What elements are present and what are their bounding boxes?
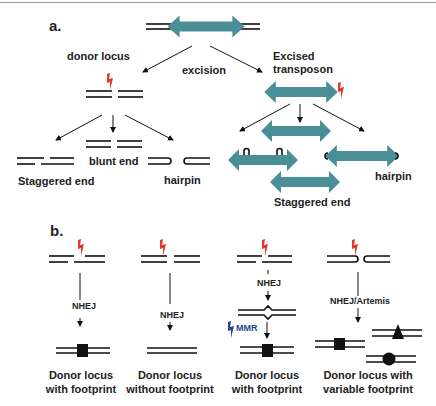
diagram-graphics	[0, 0, 436, 406]
broken-donor-locus	[86, 91, 143, 97]
hairpin-locus	[327, 256, 390, 262]
dsb-lightning-icon	[107, 73, 113, 90]
transposon-label: transposon	[273, 63, 333, 75]
staggered-end-glyph	[17, 158, 74, 164]
excised-transposon-arrow	[264, 81, 338, 103]
hairpin-glyph	[148, 158, 210, 164]
nhej-label: NHEJ	[257, 278, 281, 288]
nhej-label: NHEJ	[72, 301, 96, 311]
staggered-end-label: Staggered end	[18, 175, 94, 187]
mmr-label: MMR	[236, 323, 258, 333]
footprint-circle	[383, 353, 396, 366]
transposon-staggered-arrow	[270, 171, 340, 193]
result-label-col4: Donor locus with variable footprint	[318, 368, 418, 396]
dsb-lightning-icon	[78, 239, 84, 256]
transposon-overhang-arrow	[228, 149, 298, 171]
panel-a-label: a.	[49, 17, 62, 34]
footprint-square	[334, 338, 345, 350]
dsb-lightning-icon	[338, 82, 344, 99]
donor-locus-label: donor locus	[67, 50, 130, 62]
dsb-lightning-icon	[352, 239, 358, 256]
footprint-triangle	[392, 324, 404, 339]
excised-label: Excised	[273, 50, 315, 62]
nhej-artemis-label: NHEJ/Artemis	[330, 296, 390, 306]
transposon-excision-diagram: a. donor locus excision Excised transpos…	[0, 0, 436, 406]
dsb-lightning-icon	[262, 239, 268, 256]
blunt-end-label: blunt end	[89, 155, 139, 167]
mismatch-locus	[238, 306, 296, 319]
result-label-col2: Donor locus without footprint	[124, 368, 216, 396]
result-label-col1: Donor locus with footprint	[38, 368, 124, 396]
footprint-square	[262, 344, 273, 357]
transposon-staggered-label: Staggered end	[274, 196, 350, 208]
transposon-hairpin-label: hairpin	[375, 170, 412, 182]
dsb-lightning-icon	[160, 239, 166, 256]
blunt-end-glyph	[86, 141, 142, 147]
footprint-square	[77, 344, 88, 357]
clean-locus	[147, 348, 197, 353]
excision-label: excision	[182, 64, 226, 76]
result-label-col3: Donor locus with footprint	[224, 368, 310, 396]
transposon-blunt-arrow	[261, 120, 331, 142]
panel-b-label: b.	[50, 222, 63, 239]
hairpin-label: hairpin	[164, 174, 201, 186]
nhej-label: NHEJ	[160, 310, 184, 320]
mmr-lightning-icon	[228, 321, 234, 338]
transposon-arrow	[168, 16, 245, 38]
transposon-hairpin-arrow	[325, 145, 399, 167]
